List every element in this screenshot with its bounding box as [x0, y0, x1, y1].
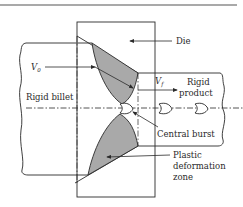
rigid-product-label-line2: product [179, 88, 213, 98]
central-burst-leader [133, 112, 158, 127]
extrusion-diagram: Die V0 Vf Rigid billet Rigid product Cen… [0, 0, 243, 207]
plastic-zone-label-line1: Plastic [173, 150, 202, 160]
central-burst-void-2 [159, 103, 172, 114]
plastic-zone-label-line2: deformation [173, 161, 226, 171]
upper-deformation-zone [92, 43, 138, 104]
central-burst-label: Central burst [157, 129, 215, 139]
die-label: Die [176, 36, 191, 46]
central-burst-void-3 [195, 103, 208, 114]
v0-label: V0 [31, 62, 41, 73]
lower-deformation-zone [88, 114, 138, 175]
rigid-product-label-line1: Rigid [187, 77, 210, 87]
rigid-billet-label: Rigid billet [26, 92, 74, 102]
vf-label: Vf [155, 76, 164, 88]
plastic-zone-label-line3: zone [173, 172, 193, 182]
central-burst-void-1 [120, 103, 133, 114]
